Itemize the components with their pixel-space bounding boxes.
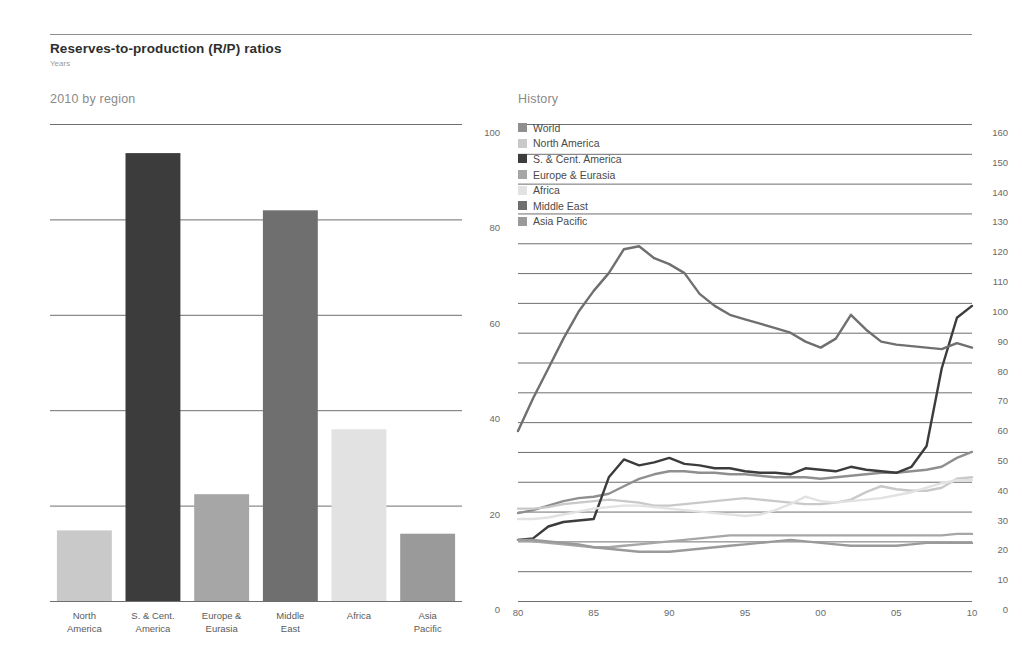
history-y-tick-150: 150 (980, 157, 1008, 168)
legend-item-label: North America (533, 137, 600, 149)
legend-item-asia-pacific[interactable]: Asia Pacific (518, 214, 708, 230)
history-y-tick-40: 40 (980, 485, 1008, 496)
bar-y-tick-80: 80 (470, 222, 500, 233)
legend-swatch-icon (518, 186, 527, 195)
history-x-tick-00: 00 (806, 607, 836, 618)
history-x-tick-95: 95 (730, 607, 760, 618)
legend-item-label: S. & Cent. America (533, 153, 622, 165)
page-title: Reserves-to-production (R/P) ratios (50, 41, 282, 56)
page-subtitle: Years (50, 59, 70, 68)
legend-item-europe-eurasia[interactable]: Europe & Eurasia (518, 167, 708, 183)
history-y-tick-60: 60 (980, 425, 1008, 436)
history-y-tick-160: 160 (980, 127, 1008, 138)
history-y-tick-90: 90 (980, 336, 1008, 347)
history-y-tick-30: 30 (980, 515, 1008, 526)
bar-category-label: S. & Cent.America (119, 610, 188, 635)
bar-y-tick-20: 20 (470, 509, 500, 520)
legend-swatch-icon (518, 201, 527, 210)
history-y-tick-120: 120 (980, 246, 1008, 257)
history-x-tick-05: 05 (881, 607, 911, 618)
legend-item-label: World (533, 122, 560, 134)
left-panel-title: 2010 by region (50, 92, 136, 106)
history-y-tick-140: 140 (980, 187, 1008, 198)
legend-swatch-icon (518, 170, 527, 179)
history-y-tick-110: 110 (980, 276, 1008, 287)
header-rule (50, 34, 972, 35)
bar-chart-category-axis: NorthAmericaS. & Cent.AmericaEurope &Eur… (50, 606, 462, 651)
bar-y-tick-0: 0 (470, 604, 500, 615)
history-y-tick-70: 70 (980, 395, 1008, 406)
bar-category-label: NorthAmerica (50, 610, 119, 635)
bar-category-label: AsiaPacific (393, 610, 462, 635)
bar-y-tick-40: 40 (470, 413, 500, 424)
history-x-tick-90: 90 (654, 607, 684, 618)
legend-swatch-icon (518, 123, 527, 132)
bar-category-label: Europe &Eurasia (187, 610, 256, 635)
legend-item-s-cent-america[interactable]: S. & Cent. America (518, 151, 708, 167)
legend-swatch-icon (518, 154, 527, 163)
bar-category-label: MiddleEast (256, 610, 325, 635)
history-y-tick-50: 50 (980, 455, 1008, 466)
history-y-tick-80: 80 (980, 366, 1008, 377)
page: Reserves-to-production (R/P) ratios Year… (0, 0, 1022, 655)
legend-item-world[interactable]: World (518, 120, 708, 136)
legend-item-middle-east[interactable]: Middle East (518, 198, 708, 214)
legend-swatch-icon (518, 217, 527, 226)
bar-category-label: Africa (325, 610, 394, 623)
legend-item-label: Europe & Eurasia (533, 169, 615, 181)
bar-y-tick-60: 60 (470, 318, 500, 329)
legend-item-label: Asia Pacific (533, 215, 587, 227)
legend-item-africa[interactable]: Africa (518, 182, 708, 198)
legend-swatch-icon (518, 139, 527, 148)
history-y-tick-10: 10 (980, 574, 1008, 585)
history-x-tick-85: 85 (579, 607, 609, 618)
legend-item-label: Africa (533, 184, 560, 196)
history-y-tick-20: 20 (980, 544, 1008, 555)
history-x-tick-80: 80 (503, 607, 533, 618)
history-x-tick-10: 10 (957, 607, 987, 618)
legend-item-north-america[interactable]: North America (518, 136, 708, 152)
history-y-tick-130: 130 (980, 216, 1008, 227)
right-panel-title: History (518, 92, 558, 106)
legend-item-label: Middle East (533, 200, 588, 212)
bar-y-tick-100: 100 (470, 127, 500, 138)
history-chart-legend: WorldNorth AmericaS. & Cent. AmericaEuro… (518, 120, 708, 229)
history-y-tick-100: 100 (980, 306, 1008, 317)
